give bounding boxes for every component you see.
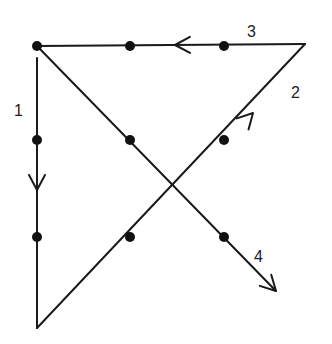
path-segments bbox=[37, 44, 305, 328]
segment-4 bbox=[37, 46, 276, 291]
dot-7 bbox=[32, 232, 42, 242]
dot-6 bbox=[219, 135, 229, 145]
arrow-icon-2 bbox=[237, 113, 253, 129]
nine-dot-diagram: 1 2 3 4 bbox=[0, 0, 332, 344]
segment-label-1: 1 bbox=[14, 102, 23, 119]
dot-4 bbox=[32, 135, 42, 145]
segment-label-4: 4 bbox=[254, 248, 263, 265]
dot-9 bbox=[219, 232, 229, 242]
dot-5 bbox=[125, 135, 135, 145]
dot-3 bbox=[219, 41, 229, 51]
dot-1 bbox=[32, 41, 42, 51]
dot-2 bbox=[125, 41, 135, 51]
segment-3 bbox=[37, 44, 305, 46]
dot-8 bbox=[125, 232, 135, 242]
segment-label-2: 2 bbox=[291, 84, 300, 101]
segment-label-3: 3 bbox=[247, 23, 256, 40]
segment-labels: 1 2 3 4 bbox=[14, 23, 300, 265]
